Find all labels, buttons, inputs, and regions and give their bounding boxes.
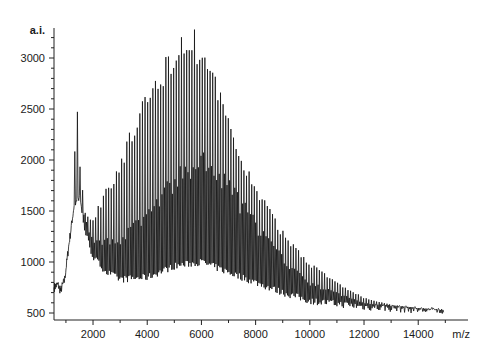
y-tick-label: 2500 [21,103,45,115]
x-tick-label: 6000 [189,328,213,340]
y-tick-label: 1500 [21,205,45,217]
x-tick-label: 14000 [403,328,434,340]
x-tick-label: 4000 [135,328,159,340]
y-axis-label: a.i. [30,24,45,36]
x-tick-label: 12000 [349,328,380,340]
x-ticks: 2000400060008000100001200014000 [66,320,445,340]
spectrum-line [54,30,444,314]
axes: 50010001500200025003000 2000400060008000… [21,24,470,340]
x-tick-label: 8000 [243,328,267,340]
y-ticks: 50010001500200025003000 [21,38,54,319]
x-tick-label: 10000 [295,328,326,340]
mass-spectrum-chart: 50010001500200025003000 2000400060008000… [0,0,491,360]
y-tick-label: 3000 [21,52,45,64]
y-tick-label: 500 [27,307,45,319]
x-tick-label: 2000 [81,328,105,340]
y-tick-label: 2000 [21,154,45,166]
y-tick-label: 1000 [21,256,45,268]
x-axis-label: m/z [452,328,470,340]
plot-area [54,30,444,314]
